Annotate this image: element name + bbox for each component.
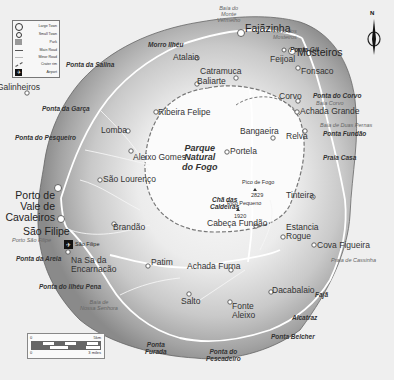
town-feijoal: Feijoal [270,55,295,64]
legend-airport: ✈ Airport [15,68,57,75]
town-fonsaco: Fonsaco [301,67,334,76]
legend-large-town: Large Town [15,22,57,29]
bay-praia-de-cassinha: Praia de Cassinha [331,258,376,264]
cape-morro-ilheu: Morro Ilhéu [148,42,183,49]
map-legend: Large Town Small Town Park Main Road Min… [12,20,60,78]
park-square-icon [15,39,23,45]
town-porto-de-vale-de-cavaleiros: Porto de Vale de Cavaleiros [3,190,55,223]
town-catramuca: Catramuca [200,67,242,76]
town-achada-grande: Achada Grande [300,107,360,116]
town-atalaia: Atalaia [173,53,199,62]
town-cova-figueira: Cova Figueira [317,241,370,250]
svg-text:✈: ✈ [66,241,71,248]
town-portela: Portela [230,147,257,156]
peak-pico-de-fogo-label: Pico de Fogo [242,180,274,186]
town-relva: Relva [286,132,308,141]
cape-ponta-belcher: Ponta Belcher [271,334,315,341]
town-brandao: Brandão [113,223,145,232]
peak-pico-pequeno-elevation: 1920 [234,214,246,220]
bay-baia-do-monte-vermelho: Baía do Monte Vermelho [217,6,240,23]
town-estancia-rogue: Estancia Rogue [286,223,319,241]
legend-main-road: Main Road [15,46,57,53]
crater-rim-line-icon [15,61,23,67]
cape-ponta-da-salina: Ponta da Salina [66,62,114,69]
cape-ponta-do-ilheu-pena: Ponta do Ilhéu Pena [39,284,101,291]
park-label: Parque Natural do Fogo [182,144,218,172]
bay-baia-de-nossa-senhora: Baía de Nossa Senhora [80,300,118,312]
town-sao-lourenco: São Lourenço [103,175,156,184]
town-dacabalaio: Dacabalaio [272,286,315,295]
bay-baia-de-duas-pernas: Baía de Duas Pernas [320,123,372,129]
town-salto: Salto [181,297,200,306]
cape-ponta-furada: Ponta Furada [145,342,167,356]
cape-ponta-gil: Ponta Gil [290,47,319,54]
north-arrow: N [364,10,384,54]
bay-baia-corvo: Baía Corvo [316,101,344,107]
town-achada-furna: Achada Furna [187,262,240,271]
town-aleixo-gomes: Aleixo Gomes [133,153,186,162]
compass-icon [364,17,384,57]
fogo-island-map: ✈ Large Town Small Town Park Main Road M… [0,0,394,380]
town-fonte-aleixo: Fonte Aleixo [232,302,255,320]
town-baliarte: Baliarte [197,77,226,86]
peak-pico-de-fogo-elevation: 2829 [251,193,263,199]
legend-park: Park [15,38,57,45]
cape-ponta-da-areia: Ponta da Areia [16,256,61,263]
town-na-sa-da-encarnacao: Na Sa da Encarnacão [71,256,116,274]
bay-porto-sao-filipe: Porto São Filipe [12,238,51,244]
town-sao-filipe: São Filipe [23,226,70,237]
town-tinteira: Tinteira [286,191,314,200]
cape-ponta-fundao: Ponta Fundão [323,131,366,138]
airport-label: São Filipe [75,242,99,248]
town-lomba: Lomba [101,126,127,135]
legend-minor-road: Minor Road [15,53,57,60]
large-town-circle-icon [15,23,23,29]
cape-faja: Fajã [315,292,328,299]
legend-crater-rim: Crater rim [15,60,57,67]
cape-ponta-do-pescadeiro: Ponta do Pescadeiro [206,349,241,363]
airport-plane-icon: ✈ [15,69,23,75]
town-ribeira-felipe: Ribeira Felipe [158,108,210,117]
town-patim: Patim [151,258,173,267]
town-galinheiros: Galinheiros [0,83,40,92]
cape-ponta-da-garca: Ponta da Garça [42,106,90,113]
minor-road-line-icon [15,54,23,60]
main-road-line-icon [15,47,23,53]
peak-pico-pequeno-label: Pico Pequeno [227,201,261,207]
bay-porto-dos-mosteiros: Porto dos Mosteiros [273,29,297,41]
town-corvo: Corvo [279,92,302,101]
compass-n-label: N [370,10,374,16]
small-town-circle-icon [15,31,23,37]
scale-bar: 0 5km 0 3 miles [27,333,105,359]
town-cabeca-fundao: Cabeça Fundão [207,219,268,228]
cape-alcatraz: Alcatraz [292,315,317,322]
cape-ponta-do-corvo: Ponta do Corvo [313,93,361,100]
town-bangaeira: Bangaeira [240,127,279,136]
cape-ponta-do-pesqueiro: Ponta do Pesqueiro [15,135,76,142]
cape-praia-casa: Praia Casa [323,155,356,162]
legend-small-town: Small Town [15,30,57,37]
